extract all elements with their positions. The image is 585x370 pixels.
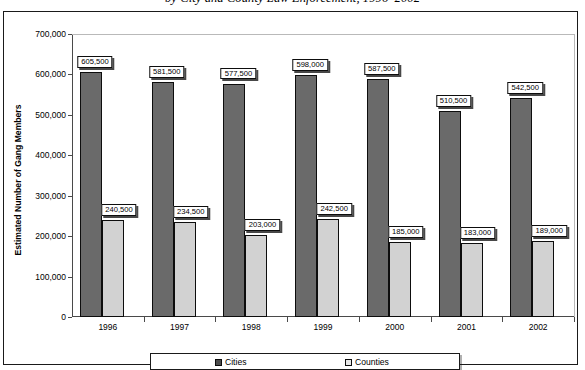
data-label-counties-1998: 203,000: [245, 219, 280, 231]
y-axis-tick-label: 100,000: [4, 272, 66, 282]
bar-cities-1996: [80, 72, 102, 317]
bar-counties-2002: [532, 241, 554, 317]
bar-cities-2001: [439, 111, 461, 317]
x-axis-label-1998: 1998: [211, 322, 291, 332]
y-axis-tick-label: 600,000: [4, 69, 66, 79]
legend: Cities Counties: [150, 353, 460, 370]
x-axis-label-2001: 2001: [426, 322, 506, 332]
data-label-counties-1999: 242,500: [316, 203, 351, 215]
legend-label-cities: Cities: [225, 357, 247, 367]
bar-cities-2000: [367, 79, 389, 317]
data-label-cities-1999: 598,000: [292, 59, 327, 71]
data-label-counties-2002: 189,000: [532, 225, 567, 237]
legend-swatch-cities-icon: [215, 359, 222, 366]
data-label-counties-2000: 185,000: [388, 226, 423, 238]
data-label-cities-2001: 510,500: [436, 95, 471, 107]
data-label-cities-2002: 542,500: [508, 82, 543, 94]
data-label-cities-1997: 581,500: [149, 66, 184, 78]
plot-frame-top: [72, 34, 574, 35]
bar-counties-1996: [102, 220, 124, 317]
y-axis-tick-label: 300,000: [4, 191, 66, 201]
chart-outer-frame: Estimated Number of Gang Members 700,000…: [3, 11, 578, 365]
y-axis-tick-mark: [68, 317, 72, 318]
data-label-cities-1998: 577,500: [221, 68, 256, 80]
data-label-counties-1997: 234,500: [173, 206, 208, 218]
bar-cities-1998: [223, 84, 245, 317]
x-axis-label-1996: 1996: [68, 322, 148, 332]
y-axis-tick-label: 500,000: [4, 110, 66, 120]
legend-item-counties: Counties: [345, 357, 389, 367]
y-axis-tick-label: 400,000: [4, 150, 66, 160]
plot-frame-right: [574, 34, 575, 317]
legend-swatch-counties-icon: [345, 359, 352, 366]
x-axis-label-2002: 2002: [498, 322, 578, 332]
bar-counties-2000: [389, 242, 411, 317]
bar-counties-1997: [174, 222, 196, 317]
bar-cities-1997: [152, 82, 174, 317]
legend-label-counties: Counties: [355, 357, 389, 367]
x-axis-label-2000: 2000: [355, 322, 435, 332]
bar-counties-1999: [317, 219, 339, 317]
x-axis-label-1999: 1999: [283, 322, 363, 332]
y-axis-tick-label: 0: [4, 312, 66, 322]
x-axis-label-1997: 1997: [140, 322, 220, 332]
bar-counties-1998: [245, 235, 267, 317]
data-label-counties-1996: 240,500: [101, 204, 136, 216]
bar-cities-2002: [510, 98, 532, 317]
data-label-cities-2000: 587,500: [364, 63, 399, 75]
y-axis-tick-label: 200,000: [4, 231, 66, 241]
y-axis-tick-label: 700,000: [4, 29, 66, 39]
data-label-cities-1996: 605,500: [77, 56, 112, 68]
data-label-counties-2001: 183,000: [460, 227, 495, 239]
bar-cities-1999: [295, 75, 317, 317]
legend-item-cities: Cities: [215, 357, 247, 367]
chart-title: by City and County Law Enforcement, 1996…: [0, 0, 585, 6]
bar-counties-2001: [461, 243, 483, 317]
